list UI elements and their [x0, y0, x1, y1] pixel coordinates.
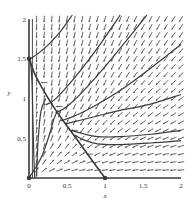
phase-portrait-chart: 00.511.520.511.52xy: [0, 0, 196, 204]
arrowhead-icon: [36, 127, 38, 129]
equilibrium-point: [27, 176, 32, 181]
arrowhead-icon: [170, 169, 172, 171]
arrowhead-icon: [43, 21, 45, 23]
arrowhead-icon: [51, 52, 53, 54]
arrowhead-icon: [36, 103, 38, 105]
y-tick-label: 2: [23, 16, 27, 24]
x-axis-label: x: [102, 192, 107, 200]
trajectory-t5: [65, 95, 181, 124]
y-tick-label: 0.5: [17, 135, 26, 143]
arrowhead-icon: [36, 36, 38, 38]
arrowhead-icon: [43, 28, 45, 30]
arrowhead-icon: [117, 169, 119, 171]
arrowhead-icon: [132, 169, 134, 171]
x-tick-label: 0: [27, 182, 31, 190]
x-tick-label: 0.5: [63, 182, 72, 190]
arrowhead-icon: [125, 169, 127, 171]
y-tick-label: 1: [23, 95, 27, 103]
arrowhead-icon: [43, 44, 45, 46]
arrowhead-icon: [41, 82, 43, 84]
arrowhead-icon: [43, 52, 45, 54]
trajectory-t3: [56, 15, 147, 113]
arrowhead-icon: [36, 29, 38, 31]
arrowhead-icon: [51, 36, 53, 38]
arrowhead-icon: [36, 111, 38, 113]
x-tick-label: 1: [103, 182, 107, 190]
arrowhead-icon: [51, 28, 53, 30]
arrowhead-icon: [43, 68, 45, 70]
equilibrium-point: [27, 56, 32, 61]
arrowhead-icon: [163, 169, 165, 171]
arrowhead-icon: [36, 87, 38, 89]
arrowhead-icon: [147, 169, 149, 171]
trajectory-t4: [61, 44, 181, 120]
arrowhead-icon: [155, 169, 157, 171]
y-axis-label: y: [6, 89, 11, 97]
arrowhead-icon: [36, 44, 38, 46]
arrowhead-icon: [178, 169, 180, 171]
arrowhead-icon: [36, 95, 38, 97]
arrowhead-icon: [36, 60, 38, 62]
x-tick-label: 1.5: [139, 182, 148, 190]
arrowhead-icon: [43, 36, 45, 38]
direction-field: [35, 16, 184, 173]
arrowhead-icon: [43, 87, 45, 89]
arrowhead-icon: [140, 169, 142, 171]
arrowhead-icon: [36, 21, 38, 23]
arrowhead-icon: [36, 71, 38, 73]
arrowhead-icon: [36, 119, 38, 121]
y-tick-label: 1.5: [17, 55, 26, 63]
arrowhead-icon: [43, 76, 45, 78]
equilibrium-point: [103, 176, 108, 181]
arrowhead-icon: [51, 20, 53, 22]
arrowhead-icon: [56, 105, 58, 107]
arrowhead-icon: [43, 60, 45, 62]
arrowhead-icon: [36, 68, 38, 70]
x-tick-label: 2: [179, 182, 183, 190]
arrowhead-icon: [51, 44, 53, 46]
